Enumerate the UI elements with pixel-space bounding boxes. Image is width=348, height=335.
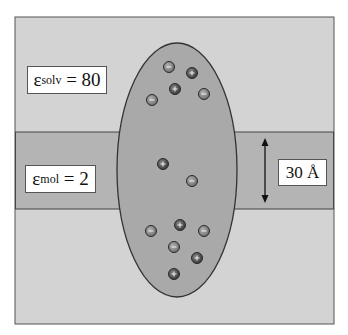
- membrane-dielectric-label: εmol = 2: [25, 165, 96, 193]
- positive-charge-icon: [175, 220, 186, 231]
- thickness-value: 30 Å: [286, 163, 320, 183]
- negative-charge-icon: [147, 95, 158, 106]
- negative-charge-icon: [146, 226, 157, 237]
- epsilon-symbol: ε: [33, 69, 41, 91]
- mol-value: = 2: [59, 168, 89, 190]
- solv-value: = 80: [61, 69, 100, 91]
- negative-charge-icon: [187, 176, 198, 187]
- negative-charge-icon: [169, 242, 180, 253]
- positive-charge-icon: [187, 68, 198, 79]
- positive-charge-icon: [170, 84, 181, 95]
- positive-charge-icon: [169, 269, 180, 280]
- molecule-ellipse: [117, 43, 237, 297]
- positive-charge-icon: [158, 159, 169, 170]
- positive-charge-icon: [192, 253, 203, 264]
- negative-charge-icon: [164, 62, 175, 73]
- negative-charge-icon: [199, 89, 210, 100]
- epsilon-symbol: ε: [32, 168, 40, 190]
- solvent-dielectric-label: εsolv = 80: [27, 66, 107, 94]
- negative-charge-icon: [199, 226, 210, 237]
- thickness-label: 30 Å: [278, 159, 327, 186]
